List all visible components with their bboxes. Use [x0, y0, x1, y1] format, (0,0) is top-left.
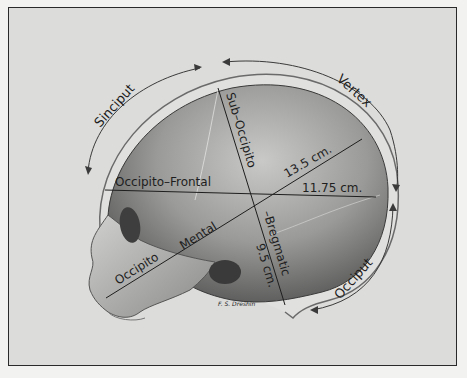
sinciput-label: Sinciput — [91, 81, 137, 130]
occipito-frontal-label: Occipito–Frontal — [115, 175, 211, 189]
occipito-frontal-value: 11.75 cm. — [302, 181, 362, 195]
ear-region — [209, 260, 241, 284]
skull-illustration: Sinciput Vertex Occiput Occipito–Frontal… — [0, 0, 467, 378]
artist-signature: F. S. Dreshin — [218, 300, 255, 307]
